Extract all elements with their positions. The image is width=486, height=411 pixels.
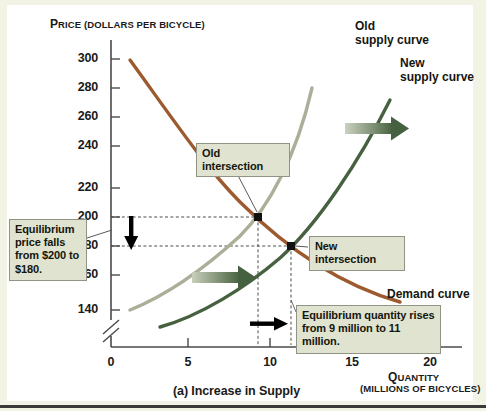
y-tick-220: 220 bbox=[64, 180, 98, 194]
x-tick-5: 5 bbox=[175, 355, 201, 369]
old-supply-curve-label-line1: Old bbox=[355, 19, 375, 33]
x-axis-subtitle: (MILLIONS OF BICYCLES) bbox=[360, 383, 480, 394]
supply-shift-arrow-upper bbox=[345, 117, 409, 141]
x-tick-10: 10 bbox=[257, 355, 283, 369]
y-tick-260: 260 bbox=[64, 109, 98, 123]
new-intersection-marker bbox=[287, 242, 295, 250]
x-axis-title-rest: UANTITY bbox=[397, 372, 439, 383]
y-tick-240: 240 bbox=[64, 138, 98, 152]
y-tick-280: 280 bbox=[64, 80, 98, 94]
callout-equilibrium-price: Equilibrium price falls from $200 to $18… bbox=[9, 219, 87, 281]
x-tick-20: 20 bbox=[417, 355, 443, 369]
old-supply-curve-label-line2: supply curve bbox=[355, 33, 429, 47]
old-intersection-marker bbox=[254, 213, 262, 221]
equilibrium-price-leader bbox=[87, 230, 112, 238]
old-supply-curve-label: Old supply curve bbox=[355, 19, 429, 47]
figure-caption: (a) Increase in Supply bbox=[173, 384, 300, 398]
y-axis-title-initial: P bbox=[50, 17, 58, 31]
callout-equilibrium-quantity: Equilibrium quantity rises from 9 millio… bbox=[296, 305, 441, 354]
demand-curve-label: Demand curve bbox=[387, 287, 470, 301]
y-axis-ticks bbox=[111, 59, 120, 310]
y-axis-title-rest: RICE (DOLLARS PER BICYCLE) bbox=[58, 19, 205, 30]
x-tick-15: 15 bbox=[339, 355, 365, 369]
callout-new-intersection: New intersection bbox=[309, 236, 405, 271]
quantity-rise-arrow bbox=[250, 317, 288, 331]
new-supply-curve-label-line1: New bbox=[400, 56, 425, 70]
new-supply-curve-label-line2: supply curve bbox=[400, 70, 474, 84]
callout-old-intersection: Old intersection bbox=[196, 143, 290, 177]
new-supply-curve bbox=[160, 100, 390, 327]
price-fall-arrow bbox=[124, 216, 138, 250]
y-tick-300: 300 bbox=[64, 51, 98, 65]
y-axis-title: PRICE (DOLLARS PER BICYCLE) bbox=[50, 17, 205, 31]
y-tick-140: 140 bbox=[64, 302, 98, 316]
new-supply-curve-label: New supply curve bbox=[400, 56, 474, 84]
figure-container: PRICE (DOLLARS PER BICYCLE) 300 280 260 … bbox=[0, 0, 486, 411]
bottom-rule bbox=[0, 405, 486, 408]
new-intersection-leader bbox=[295, 246, 308, 247]
x-tick-0: 0 bbox=[98, 355, 124, 369]
x-axis-title: QUANTITY bbox=[388, 370, 439, 384]
